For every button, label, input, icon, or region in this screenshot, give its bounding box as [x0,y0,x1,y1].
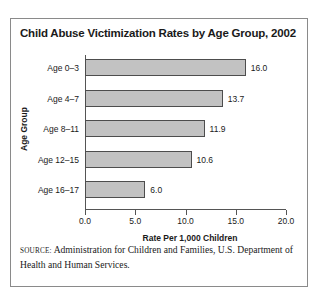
bar-category-label: Age 8–11 [10,124,79,134]
source-text: Administration for Children and Families… [20,244,293,270]
x-axis-tick-label: 5.0 [115,216,155,226]
x-axis-tick-label: 0.0 [65,216,105,226]
x-axis-tick [286,210,287,215]
bar-category-label: Age 16–17 [10,185,79,195]
x-axis-tick [236,210,237,215]
x-axis-title: Rate Per 1,000 Children [85,233,295,243]
source-label: Source: [20,247,52,255]
bar-value-label: 10.6 [197,155,214,165]
bar [85,151,192,168]
bar [85,181,145,198]
x-axis-tick [135,210,136,215]
bar-value-label: 13.7 [228,94,245,104]
bar-value-label: 6.0 [150,185,162,195]
bar-value-label: 16.0 [251,63,268,73]
source-note: Source: Administration for Children and … [20,243,296,271]
x-axis-tick [186,210,187,215]
bar-category-label: Age 0–3 [10,63,79,73]
x-axis-tick [85,210,86,215]
bar [85,59,246,76]
bar-value-label: 11.9 [210,124,226,134]
chart-figure: Child Abuse Victimization Rates by Age G… [10,18,308,287]
x-axis-tick-label: 10.0 [166,216,206,226]
bar-category-label: Age 4–7 [10,94,79,104]
x-axis-tick-label: 20.0 [266,216,306,226]
x-axis-tick-label: 15.0 [216,216,256,226]
bar-category-label: Age 12–15 [10,155,79,165]
bar [85,120,205,137]
bar [85,90,223,107]
